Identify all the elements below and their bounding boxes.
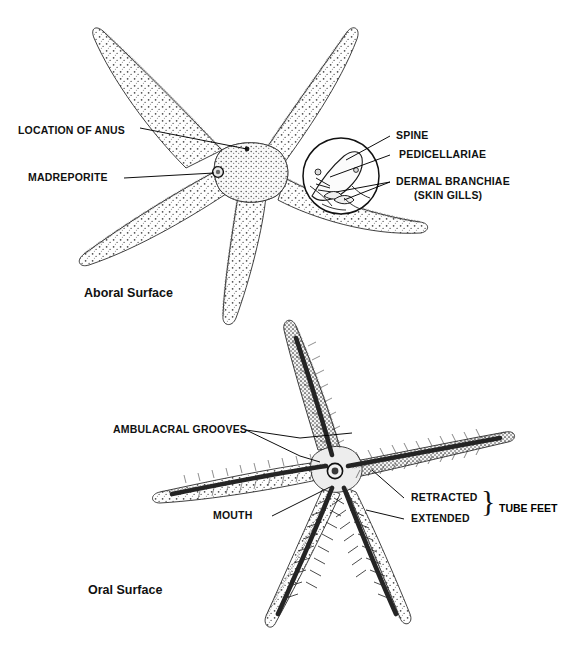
madreporite-structure (213, 167, 224, 178)
label-retracted: RETRACTED (411, 491, 478, 503)
leader-grooves-b (246, 430, 320, 462)
anatomy-plate: LOCATION OF ANUS MADREPORITE SPINE PEDIC… (0, 0, 574, 668)
label-mouth: MOUTH (213, 509, 253, 521)
leader-extended (366, 510, 404, 519)
magnified-detail-inset (303, 138, 379, 214)
leader-retracted (372, 470, 404, 498)
label-location-of-anus: LOCATION OF ANUS (18, 124, 125, 136)
oral-starfish (153, 320, 515, 627)
label-skin-gills: (SKIN GILLS) (414, 189, 482, 201)
caption-oral-surface: Oral Surface (88, 583, 162, 597)
label-pedicellariae: PEDICELLARIAE (399, 148, 486, 160)
caption-aboral-surface: Aboral Surface (84, 286, 173, 300)
starfish-illustration (0, 0, 574, 668)
leader-madreporite (124, 173, 214, 178)
aboral-arm-left (79, 170, 232, 266)
label-spine: SPINE (396, 129, 429, 141)
mouth-structure (327, 463, 342, 478)
aboral-starfish (79, 28, 427, 325)
label-extended: EXTENDED (411, 512, 470, 524)
oral-arm-lower-right (346, 488, 411, 624)
label-dermal-branchiae: DERMAL BRANCHIAE (396, 175, 510, 187)
label-ambulacral-grooves: AMBULACRAL GROOVES (113, 423, 247, 435)
brace-glyph: } (481, 486, 495, 516)
aboral-arm-upper-left (93, 28, 222, 168)
label-tube-feet: TUBE FEET (499, 502, 557, 514)
label-madreporite: MADREPORITE (28, 171, 108, 183)
